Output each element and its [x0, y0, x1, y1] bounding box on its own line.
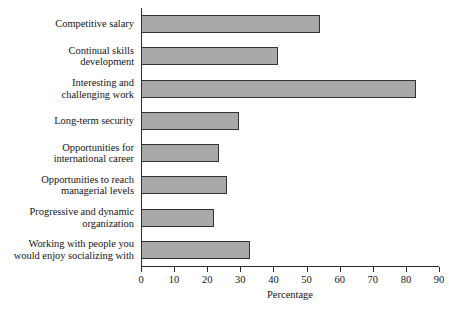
category-label-line: managerial levels: [0, 185, 134, 197]
x-axis-tick: [439, 267, 440, 272]
category-label-line: international career: [0, 153, 134, 165]
category-label: Long-term security: [0, 115, 134, 127]
x-axis-tick-label: 40: [258, 274, 288, 286]
category-label: Interesting andchallenging work: [0, 77, 134, 100]
x-axis-tick-label: 10: [159, 274, 189, 286]
category-label-line: Long-term security: [0, 115, 134, 127]
category-label-line: Continual skills: [0, 45, 134, 57]
x-axis-tick: [307, 267, 308, 272]
plot-area: 0102030405060708090: [141, 8, 439, 266]
category-label-line: challenging work: [0, 89, 134, 101]
x-axis-title: Percentage: [141, 289, 439, 300]
category-label: Opportunities to reachmanagerial levels: [0, 174, 134, 197]
x-axis-tick-label: 20: [192, 274, 222, 286]
bar: [141, 15, 320, 33]
x-axis-tick: [141, 267, 142, 272]
category-label-line: Competitive salary: [0, 18, 134, 30]
bar: [141, 80, 416, 98]
category-label-line: organization: [0, 218, 134, 230]
category-label-line: would enjoy socializing with: [0, 250, 134, 262]
category-label: Continual skillsdevelopment: [0, 45, 134, 68]
x-axis-tick: [373, 267, 374, 272]
x-axis-line: [141, 266, 439, 267]
category-label-line: Working with people you: [0, 238, 134, 250]
bar-chart: Competitive salaryContinual skillsdevelo…: [0, 0, 449, 313]
x-axis-tick: [207, 267, 208, 272]
bar: [141, 144, 219, 162]
category-label-line: Opportunities for: [0, 142, 134, 154]
category-label: Opportunities forinternational career: [0, 142, 134, 165]
category-label-line: Interesting and: [0, 77, 134, 89]
category-label: Progressive and dynamicorganization: [0, 206, 134, 229]
x-axis-tick-label: 70: [358, 274, 388, 286]
bar: [141, 112, 239, 130]
bar: [141, 241, 250, 259]
x-axis-tick-label: 60: [325, 274, 355, 286]
bar: [141, 47, 278, 65]
x-axis-tick-label: 90: [424, 274, 449, 286]
x-axis-tick: [340, 267, 341, 272]
x-axis-tick-label: 0: [126, 274, 156, 286]
category-label-line: Progressive and dynamic: [0, 206, 134, 218]
x-axis-tick: [240, 267, 241, 272]
category-label-column: Competitive salaryContinual skillsdevelo…: [0, 8, 138, 266]
category-label: Competitive salary: [0, 18, 134, 30]
x-axis-tick-label: 80: [391, 274, 421, 286]
x-axis-tick: [273, 267, 274, 272]
category-label: Working with people youwould enjoy socia…: [0, 238, 134, 261]
bar: [141, 176, 227, 194]
x-axis-tick-label: 30: [225, 274, 255, 286]
x-axis-tick: [406, 267, 407, 272]
bar: [141, 209, 214, 227]
x-axis-tick-label: 50: [292, 274, 322, 286]
category-label-line: development: [0, 56, 134, 68]
x-axis-tick: [174, 267, 175, 272]
category-label-line: Opportunities to reach: [0, 174, 134, 186]
